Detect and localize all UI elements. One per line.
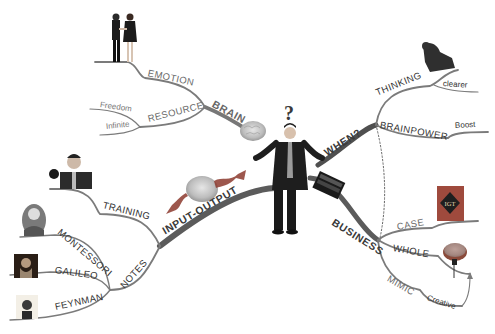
branch-case — [378, 221, 478, 240]
label-clearer: clearer — [443, 80, 468, 90]
portrait-galileo — [14, 254, 38, 278]
brain-icon — [240, 121, 266, 141]
igt-logo-text: IGT — [445, 200, 456, 207]
dotted-link — [376, 125, 385, 238]
arrow-creative-to-whole — [462, 276, 470, 306]
boxer-image — [49, 154, 92, 189]
question-mark: ? — [284, 102, 294, 124]
thinker-statue-image — [422, 42, 455, 72]
portrait-montessori — [22, 204, 46, 236]
handshake-couple-image — [112, 14, 137, 63]
label-boost: Boost — [455, 121, 476, 130]
portrait-feynman — [16, 295, 38, 319]
igt-logo: IGT — [437, 186, 464, 221]
mind-map-canvas: ? — [0, 0, 495, 334]
